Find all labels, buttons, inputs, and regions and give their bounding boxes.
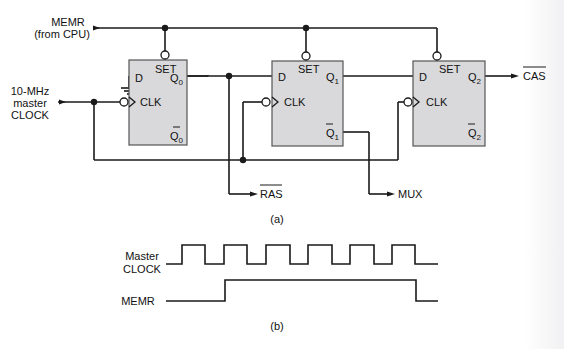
cas-output-label: CAS bbox=[523, 70, 546, 82]
ras-output-label: RAS bbox=[260, 188, 283, 200]
memr-input-label: MEMR bbox=[51, 16, 85, 28]
master-clock-waveform bbox=[166, 245, 438, 264]
memr-input-sublabel: (from CPU) bbox=[34, 28, 90, 40]
timing-clock-label-2: CLOCK bbox=[123, 263, 162, 275]
ff1-set-label: SET bbox=[298, 63, 320, 75]
timing-clock-label-1: Master bbox=[125, 250, 159, 262]
caption-a: (a) bbox=[270, 213, 283, 225]
ff2-set-label: SET bbox=[439, 63, 461, 75]
timing-memr-label: MEMR bbox=[121, 295, 155, 307]
ff2-clk-label: CLK bbox=[426, 96, 448, 108]
clock-input-label-2: master bbox=[13, 97, 47, 109]
ff0-clk-label: CLK bbox=[140, 96, 162, 108]
ff1-d-label: D bbox=[278, 71, 286, 83]
mux-output-label: MUX bbox=[398, 188, 423, 200]
ff2-d-label: D bbox=[419, 71, 427, 83]
clock-input-label-3: CLOCK bbox=[11, 109, 50, 121]
caption-b: (b) bbox=[270, 320, 283, 332]
timing-diagram bbox=[166, 245, 438, 301]
ff0-d-label: D bbox=[135, 72, 143, 84]
ff1-clk-label: CLK bbox=[284, 96, 306, 108]
memr-waveform bbox=[166, 280, 438, 301]
circuit-diagram: D SET Q0 CLK Q0 D SET Q1 CLK Q1 D SET Q2… bbox=[0, 0, 564, 349]
clock-input-label-1: 10-MHz bbox=[11, 85, 50, 97]
